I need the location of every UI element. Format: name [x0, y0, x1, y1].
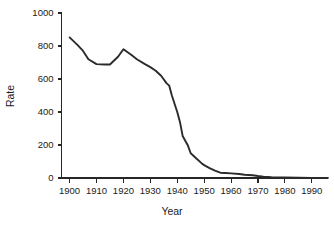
y-tick-label: 1000 [32, 7, 53, 18]
data-line-rate [70, 37, 328, 177]
series-group [70, 37, 328, 177]
chart-container: 02004006008001000 Rate 19001910192019301… [0, 0, 334, 228]
x-tick-label: 1920 [113, 185, 134, 196]
x-tick-label: 1970 [247, 185, 268, 196]
x-tick-labels: 1900191019201930194019501960197019801990 [59, 185, 322, 196]
x-tick-label: 1960 [221, 185, 242, 196]
y-tick-label: 400 [38, 106, 54, 117]
y-tick-label: 800 [38, 40, 54, 51]
x-tick-label: 1930 [140, 185, 161, 196]
x-tick-label: 1940 [167, 185, 188, 196]
y-tick-labels: 02004006008001000 [32, 7, 53, 183]
y-tick-label: 0 [48, 172, 53, 183]
x-tick-label: 1990 [301, 185, 322, 196]
x-tick-label: 1980 [274, 185, 295, 196]
x-tick-label: 1900 [59, 185, 80, 196]
x-tick-label: 1910 [86, 185, 107, 196]
y-axis-group: 02004006008001000 Rate [4, 7, 62, 183]
x-tick-label: 1950 [194, 185, 215, 196]
y-tick-label: 200 [38, 139, 54, 150]
line-chart: 02004006008001000 Rate 19001910192019301… [0, 0, 334, 228]
x-axis-group: 1900191019201930194019501960197019801990… [59, 178, 328, 217]
y-axis-title: Rate [4, 85, 16, 107]
x-axis-title: Year [161, 205, 183, 217]
y-tick-label: 600 [38, 73, 54, 84]
